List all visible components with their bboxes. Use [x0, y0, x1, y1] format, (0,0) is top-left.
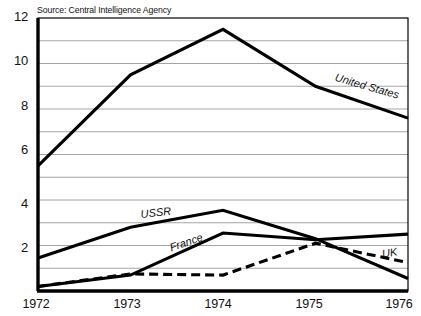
source-note: Source: Central Intelligence Agency: [37, 5, 171, 15]
x-tick-label: 1972: [13, 297, 59, 311]
y-tick-label: 6: [2, 142, 28, 157]
y-tick-label: 8: [2, 98, 28, 113]
y-tick-label: 12: [2, 9, 28, 24]
y-tick-label: 4: [2, 196, 28, 211]
x-tick-label: 1976: [376, 297, 421, 311]
plot-area: [0, 0, 421, 316]
y-tick-label: 10: [2, 53, 28, 68]
x-tick-label: 1974: [195, 297, 241, 311]
x-tick-label: 1975: [286, 297, 332, 311]
line-chart: Source: Central Intelligence Agency 12 1…: [0, 0, 421, 316]
y-tick-label: 2: [2, 240, 28, 255]
x-tick-label: 1973: [104, 297, 150, 311]
series-lines: [38, 29, 408, 286]
